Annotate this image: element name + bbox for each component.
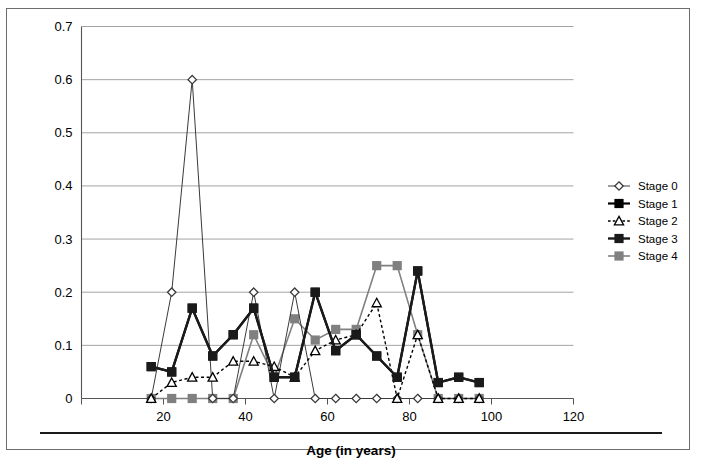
x-tick-label: 60	[320, 409, 334, 424]
marker-square	[311, 335, 320, 344]
legend-label: Stage 4	[638, 250, 678, 262]
x-tick-label: 80	[402, 409, 416, 424]
x-tick-label: 100	[481, 409, 503, 424]
y-tick-label: 0.4	[54, 178, 72, 193]
y-tick-label: 0.7	[54, 19, 72, 34]
x-tick-label: 120	[563, 409, 585, 424]
series-stage-1	[147, 266, 484, 387]
legend-item-stage-2[interactable]: Stage 2	[608, 215, 678, 227]
marker-triangle	[372, 298, 381, 307]
marker-square	[249, 330, 258, 339]
y-tick-label: 0.5	[54, 125, 72, 140]
marker-square	[229, 330, 238, 339]
marker-diamond	[414, 394, 422, 402]
marker-diamond	[373, 394, 381, 402]
y-tick-label: 0	[65, 391, 72, 406]
marker-square	[188, 394, 197, 403]
legend-item-stage-4[interactable]: Stage 4	[608, 250, 678, 262]
x-tick-label: 40	[238, 409, 252, 424]
y-tick-label: 0.1	[54, 338, 72, 353]
y-tick-label: 0.3	[54, 232, 72, 247]
marker-diamond	[291, 288, 299, 296]
marker-square	[331, 346, 340, 355]
y-tick-label: 0.2	[54, 285, 72, 300]
marker-square	[413, 266, 422, 275]
marker-square	[167, 367, 176, 376]
marker-diamond	[250, 288, 258, 296]
marker-square	[167, 394, 176, 403]
marker-square	[311, 288, 320, 297]
legend-label: Stage 2	[638, 215, 678, 227]
marker-square	[270, 373, 279, 382]
marker-square	[290, 314, 299, 323]
marker-triangle	[188, 373, 197, 382]
marker-square	[434, 378, 443, 387]
marker-square	[393, 373, 402, 382]
marker-square	[475, 378, 484, 387]
series-stage-3	[147, 266, 484, 387]
marker-square	[393, 261, 402, 270]
marker-square	[614, 234, 623, 243]
marker-square	[290, 373, 299, 382]
x-axis-title: Age (in years)	[306, 443, 395, 458]
marker-square	[614, 251, 623, 260]
marker-square	[249, 304, 258, 313]
marker-square	[372, 351, 381, 360]
marker-square	[147, 362, 156, 371]
marker-square	[331, 325, 340, 334]
marker-triangle	[249, 357, 258, 366]
legend-item-stage-3[interactable]: Stage 3	[608, 233, 678, 245]
legend-item-stage-0[interactable]: Stage 0	[608, 180, 678, 192]
marker-square	[188, 304, 197, 313]
x-tick-label: 20	[156, 409, 170, 424]
marker-diamond	[615, 182, 623, 190]
x-axis: 20406080100120	[82, 399, 585, 424]
marker-diamond	[168, 288, 176, 296]
legend: Stage 0Stage 1Stage 2Stage 3Stage 4	[608, 180, 678, 262]
marker-square	[372, 261, 381, 270]
marker-square	[454, 373, 463, 382]
marker-square	[208, 351, 217, 360]
figure-container: 00.10.20.30.40.50.60.720406080100120Stag…	[0, 0, 702, 469]
legend-label: Stage 3	[638, 233, 678, 245]
marker-diamond	[311, 394, 319, 402]
marker-triangle	[614, 216, 623, 225]
marker-diamond	[352, 394, 360, 402]
marker-diamond	[332, 394, 340, 402]
y-tick-label: 0.6	[54, 72, 72, 87]
legend-label: Stage 0	[638, 180, 678, 192]
marker-square	[352, 330, 361, 339]
line-chart: 00.10.20.30.40.50.60.720406080100120Stag…	[0, 0, 702, 469]
legend-label: Stage 1	[638, 198, 678, 210]
marker-diamond	[188, 75, 196, 83]
marker-square	[614, 199, 623, 208]
marker-diamond	[270, 394, 278, 402]
legend-item-stage-1[interactable]: Stage 1	[608, 198, 678, 210]
marker-triangle	[311, 346, 320, 355]
